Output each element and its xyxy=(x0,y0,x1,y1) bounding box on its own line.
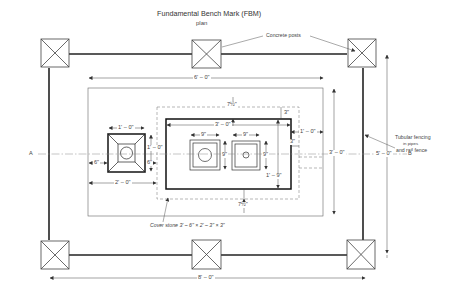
drawing-title: Fundamental Bench Mark (FBM) xyxy=(157,10,261,17)
drawing-subtitle: plan xyxy=(196,20,207,26)
pillar xyxy=(108,134,145,172)
dim-inner-height: 5' – 0" xyxy=(375,151,393,157)
dim-pillar-to-center: 2' – 0" xyxy=(114,180,132,186)
dim-offset-right: 1' – 0" xyxy=(299,129,317,135)
concrete-post-tr xyxy=(348,39,376,67)
dim-pillar-height: 1' – 0" xyxy=(146,145,164,151)
dim-offset-top: 7½" xyxy=(226,102,238,108)
dim-offset-bottom: 7½" xyxy=(237,202,249,208)
bench-mark-box-2 xyxy=(232,141,260,170)
dim-edge-top: 3" xyxy=(283,110,290,116)
concrete-post-bc xyxy=(192,240,221,269)
dim-edge-right: 3" xyxy=(289,139,296,145)
dim-box2-height: 9" xyxy=(262,152,269,158)
section-label-b: B xyxy=(407,151,413,157)
concrete-posts-label: Concrete posts xyxy=(266,33,301,38)
cover-stone-label: Cover stone 3' – 6" × 2' – 3" × 3" xyxy=(150,223,225,228)
concrete-post-br xyxy=(347,240,375,269)
fbm-plan-drawing xyxy=(0,0,453,298)
dim-box1-width: 9" xyxy=(200,132,207,138)
dim-block-height: 1' – 9" xyxy=(265,173,283,179)
dim-pillar-width: 1' – 0" xyxy=(117,125,135,131)
dim-slab-width: 3' – 0" xyxy=(214,122,232,128)
section-label-a: A xyxy=(28,151,34,157)
dim-overall-width: 8' – 0" xyxy=(197,275,215,281)
dim-inner-width: 6' – 0" xyxy=(193,75,211,81)
concrete-post-bl xyxy=(41,241,69,269)
dim-slab-height: 3' – 0" xyxy=(328,150,346,156)
bench-mark-box-1 xyxy=(190,140,220,170)
concrete-post-tc xyxy=(192,40,221,68)
dim-pillar-offset: 6" xyxy=(93,160,100,166)
dim-pillar-gap: 6" xyxy=(146,160,153,166)
concrete-post-tl xyxy=(41,39,69,67)
tubular-fencing-label-2: in pipes xyxy=(403,142,418,146)
tubular-fencing-label: Tubular fencing xyxy=(395,135,431,140)
dim-box1-height: 9" xyxy=(221,152,228,158)
dim-box2-width: 9" xyxy=(242,132,249,138)
